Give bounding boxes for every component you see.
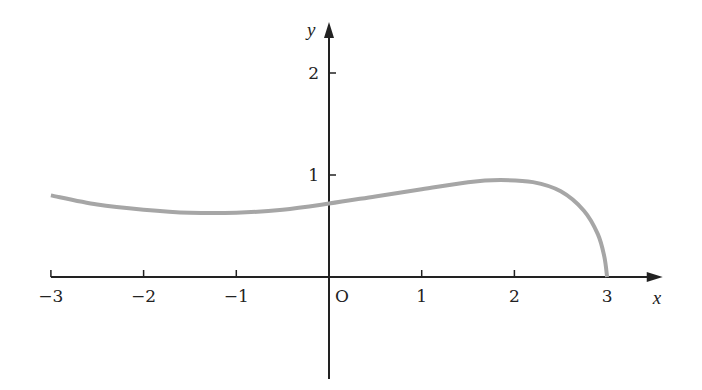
x-axis-label: x	[652, 287, 662, 308]
y-axis-arrow-icon	[324, 22, 334, 38]
x-tick-label: −3	[38, 286, 63, 306]
y-tick-label: 1	[308, 165, 319, 185]
function-graph: −3−2−1123 12 x y O	[0, 0, 702, 390]
x-tick-label: 2	[509, 286, 520, 306]
origin-label: O	[335, 286, 349, 306]
x-tick-label: −1	[224, 286, 249, 306]
x-tick-label: 1	[416, 286, 427, 306]
x-tick-label: 3	[602, 286, 613, 306]
y-axis-label: y	[305, 19, 316, 40]
y-tick-label: 2	[308, 63, 319, 83]
x-axis-arrow-icon	[647, 272, 663, 282]
x-ticks: −3−2−1123	[38, 270, 612, 306]
y-ticks: 12	[308, 63, 336, 185]
x-tick-label: −2	[131, 286, 156, 306]
